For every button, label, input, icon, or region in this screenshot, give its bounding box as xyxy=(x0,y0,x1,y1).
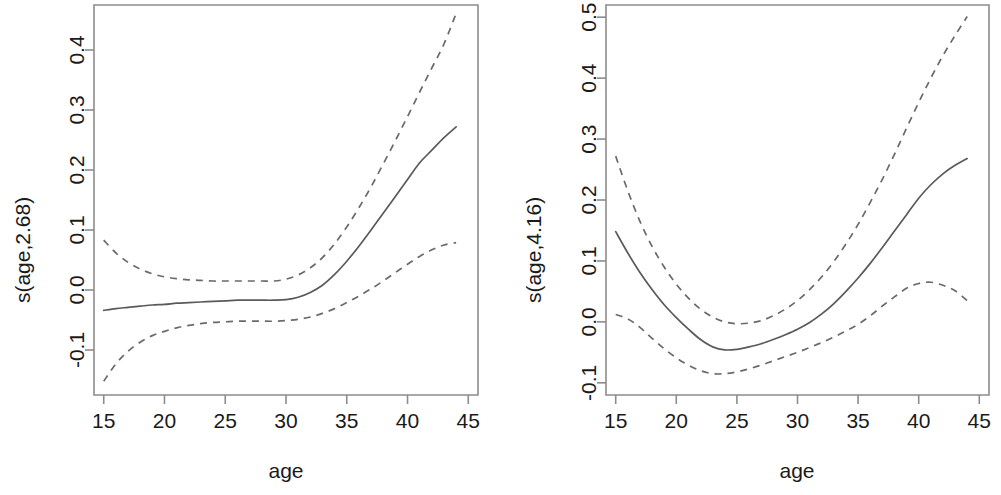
upper-confidence-curve xyxy=(104,13,456,281)
x-axis-tick-label: 15 xyxy=(92,409,115,432)
gam-partial-effect-figure: -0.10.00.10.20.30.4 15202530354045 s(age… xyxy=(0,0,1001,495)
x-axis-tick-label: 35 xyxy=(335,409,358,432)
right-panel-plot: -0.10.00.10.20.30.40.5 15202530354045 s(… xyxy=(501,0,1001,495)
panel-left: -0.10.00.10.20.30.4 15202530354045 s(age… xyxy=(0,0,500,495)
x-axis-title: age xyxy=(779,459,814,482)
x-axis-tick-label: 40 xyxy=(907,409,930,432)
y-axis-tick-labels: -0.10.00.10.20.30.4 xyxy=(65,35,88,368)
x-axis-tick-label: 30 xyxy=(786,409,809,432)
x-axis-tick-label: 45 xyxy=(968,409,991,432)
x-axis-ticks xyxy=(104,395,469,404)
x-axis-tick-label: 35 xyxy=(846,409,869,432)
panel-right: -0.10.00.10.20.30.40.5 15202530354045 s(… xyxy=(501,0,1001,495)
x-axis-tick-label: 30 xyxy=(274,409,297,432)
y-axis-tick-label: -0.1 xyxy=(65,332,88,368)
x-axis-tick-label: 15 xyxy=(604,409,627,432)
fitted-smooth-curve xyxy=(104,127,456,311)
x-axis-tick-labels: 15202530354045 xyxy=(92,409,480,432)
y-axis-tick-label: 0.0 xyxy=(577,307,600,336)
x-axis-tick-label: 45 xyxy=(457,409,480,432)
x-axis-tick-label: 20 xyxy=(153,409,176,432)
x-axis-tick-label: 25 xyxy=(725,409,748,432)
x-axis-tick-label: 20 xyxy=(665,409,688,432)
y-axis-tick-label: 0.1 xyxy=(577,246,600,275)
y-axis-tick-label: 0.3 xyxy=(65,95,88,124)
y-axis-tick-label: 0.3 xyxy=(577,124,600,153)
left-panel-plot: -0.10.00.10.20.30.4 15202530354045 s(age… xyxy=(0,0,500,495)
y-axis-tick-label: 0.4 xyxy=(65,35,88,65)
x-axis-tick-label: 25 xyxy=(214,409,237,432)
y-axis-tick-label: 0.5 xyxy=(577,3,600,32)
x-axis-title: age xyxy=(268,459,303,482)
x-axis-tick-labels: 15202530354045 xyxy=(604,409,991,432)
y-axis-tick-label: 0.2 xyxy=(577,185,600,214)
lower-confidence-curve xyxy=(616,282,967,374)
y-axis-tick-label: 0.1 xyxy=(65,215,88,244)
y-axis-title: s(age,2.68) xyxy=(11,197,34,303)
y-axis-tick-label: 0.0 xyxy=(65,275,88,304)
y-axis-tick-label: 0.4 xyxy=(577,63,600,93)
y-axis-tick-label: 0.2 xyxy=(65,155,88,184)
y-axis-tick-labels: -0.10.00.10.20.30.40.5 xyxy=(577,3,600,401)
x-axis-ticks xyxy=(616,395,980,404)
plot-box xyxy=(606,5,989,395)
x-axis-tick-label: 40 xyxy=(396,409,419,432)
y-axis-tick-label: -0.1 xyxy=(577,365,600,401)
fitted-smooth-curve xyxy=(616,159,967,350)
upper-confidence-curve xyxy=(616,17,967,324)
y-axis-title: s(age,4.16) xyxy=(522,197,545,303)
lower-confidence-curve xyxy=(104,243,456,382)
